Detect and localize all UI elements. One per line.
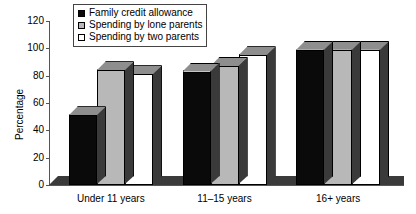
bar-front-face [296, 50, 324, 185]
bar-side-face [379, 41, 389, 185]
legend-item: Spending by lone parents [78, 19, 202, 31]
y-tick-label: 0 [16, 179, 44, 190]
legend-swatch-icon [78, 22, 85, 29]
legend-label: Spending by two parents [89, 31, 199, 43]
y-tick-label: 100 [16, 42, 44, 53]
legend-label: Family credit allowance [89, 7, 193, 19]
bar-side-face [124, 61, 134, 185]
y-tick-label: 80 [16, 70, 44, 81]
bar-side-face [96, 106, 106, 185]
legend: Family credit allowanceSpending by lone … [73, 4, 207, 47]
legend-item: Family credit allowance [78, 7, 202, 19]
legend-label: Spending by lone parents [89, 19, 202, 31]
x-category-label: 11–15 years [168, 193, 282, 204]
bar-side-face [266, 46, 276, 185]
bar-side-face [323, 41, 333, 185]
legend-swatch-icon [78, 34, 85, 41]
y-axis-line [49, 21, 50, 186]
y-tick-label: 120 [16, 15, 44, 26]
legend-swatch-icon [78, 10, 85, 17]
bar-front-face [183, 72, 211, 185]
x-category-label: Under 11 years [54, 193, 168, 204]
y-tick-label: 40 [16, 124, 44, 135]
bar [69, 106, 106, 185]
bar-side-face [351, 41, 361, 185]
x-category-label: 16+ years [281, 193, 395, 204]
bar [296, 41, 333, 185]
y-tick-label: 20 [16, 152, 44, 163]
bar-front-face [69, 115, 97, 185]
bar [183, 63, 220, 185]
y-tick-label: 60 [16, 97, 44, 108]
bar-side-face [210, 63, 220, 185]
legend-item: Spending by two parents [78, 31, 202, 43]
bar-chart: Percentage 020406080100120 Under 11 year… [0, 0, 416, 214]
bar-side-face [238, 57, 248, 185]
bar-side-face [152, 65, 162, 185]
x-axis-line [49, 185, 404, 186]
